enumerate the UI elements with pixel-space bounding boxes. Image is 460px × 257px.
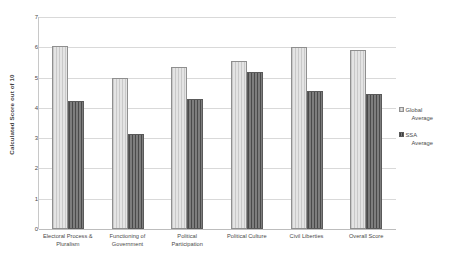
legend-label-line2: Average [406, 139, 452, 147]
bar-ssa-average [307, 91, 323, 229]
global-series-swatch [399, 107, 404, 112]
legend-label: GlobalAverage [406, 106, 452, 122]
x-tick-label: Civil Liberties [277, 232, 337, 240]
x-tick-label: Functioning ofGovernment [98, 232, 158, 248]
bars-layer [38, 17, 396, 229]
bar-global-average [112, 78, 128, 229]
x-tick-label-line: Civil Liberties [290, 233, 324, 239]
x-tick-label-line: Government [112, 241, 143, 247]
bar-group [52, 17, 84, 229]
bar-group [231, 17, 263, 229]
bar-group [171, 17, 203, 229]
y-axis-title: Calculated Score out of 10 [2, 0, 20, 229]
bar-ssa-average [247, 72, 263, 229]
bar-group [350, 17, 382, 229]
y-tick-label: 3 [24, 135, 38, 141]
bar-ssa-average [187, 99, 203, 229]
bar-ssa-average [68, 101, 84, 229]
x-tick-label-line: Participation [172, 241, 203, 247]
x-tick-label: Electoral Process &Pluralism [38, 232, 98, 248]
x-tick-label-line: Political Culture [227, 233, 267, 239]
x-tick-label-line: Overall Score [349, 233, 383, 239]
bar-group [112, 17, 144, 229]
ssa-series-swatch [399, 132, 404, 137]
bar-global-average [231, 61, 247, 229]
bar-global-average [350, 50, 366, 229]
bar-global-average [171, 67, 187, 229]
legend-label-line2: Average [406, 114, 452, 122]
x-tick-label: PoliticalParticipation [157, 232, 217, 248]
y-axis-title-text: Calculated Score out of 10 [8, 74, 15, 154]
bar-global-average [291, 47, 307, 229]
x-tick-label-line: Electoral Process & [43, 233, 93, 239]
legend-entry[interactable]: SSAAverage [399, 131, 459, 147]
bar-ssa-average [366, 94, 382, 229]
bar-ssa-average [128, 134, 144, 229]
bar-group [291, 17, 323, 229]
y-tick-label: 7 [24, 14, 38, 20]
y-tick-label: 2 [24, 165, 38, 171]
x-axis-baseline [39, 229, 396, 230]
legend-label-line1: SSA [406, 132, 418, 138]
legend-entry[interactable]: GlobalAverage [399, 106, 459, 122]
y-tick-label: 5 [24, 75, 38, 81]
y-tick-label: 0 [24, 226, 38, 232]
legend-label: SSAAverage [406, 131, 452, 147]
x-tick-label: Overall Score [336, 232, 396, 240]
x-axis-tick-labels: Electoral Process &PluralismFunctioning … [38, 232, 396, 256]
bar-chart: Calculated Score out of 10 76543210 Elec… [0, 0, 460, 257]
x-tick-label-line: Pluralism [56, 241, 79, 247]
y-tick-label: 6 [24, 44, 38, 50]
y-tick-label: 4 [24, 105, 38, 111]
x-tick-label-line: Political [177, 233, 197, 239]
bar-global-average [52, 46, 68, 229]
y-tick-label: 1 [24, 196, 38, 202]
legend-label-line1: Global [406, 107, 423, 113]
x-tick-label: Political Culture [217, 232, 277, 240]
x-tick-label-line: Functioning of [110, 233, 146, 239]
chart-legend: GlobalAverageSSAAverage [399, 106, 459, 156]
